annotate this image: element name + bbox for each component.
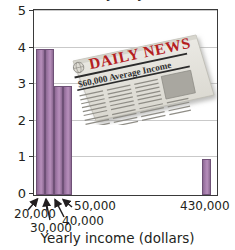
y-tick-1 xyxy=(29,156,34,157)
y-tick-5 xyxy=(29,10,34,11)
y-tick-4 xyxy=(29,47,34,48)
bar-50000 xyxy=(63,86,72,196)
newspaper-headline-text: $60,000 Average Income xyxy=(77,60,172,90)
y-tick-2 xyxy=(29,120,34,121)
gridline-3 xyxy=(34,83,217,84)
gridline-4 xyxy=(34,47,217,48)
x-axis-label-40000: 40,000 xyxy=(62,215,104,227)
bar-40000 xyxy=(54,86,63,196)
y-axis-label-3: 3 xyxy=(18,77,26,90)
x-axis-title: Yearly income (dollars) xyxy=(0,230,235,246)
gridline-5 xyxy=(34,10,217,11)
histogram-figure: Anita's yearly income Number of families… xyxy=(0,0,235,250)
bar-30000 xyxy=(45,49,54,195)
plot-area: 5 4 3 2 1 0 xyxy=(33,9,218,196)
y-axis-title: Number of families xyxy=(0,36,2,169)
x-axis-label-50000: 50,000 xyxy=(74,200,116,212)
x-axis-label-20000: 20,000 xyxy=(14,208,56,220)
x-axis-label-430000: 430,000 xyxy=(180,200,230,212)
bar-20000 xyxy=(36,49,45,195)
chart-title: Anita's yearly income xyxy=(33,0,219,1)
y-axis-label-2: 2 xyxy=(18,113,26,126)
y-axis-label-4: 4 xyxy=(18,40,26,53)
y-tick-3 xyxy=(29,83,34,84)
y-axis-label-1: 1 xyxy=(18,150,26,163)
y-axis-label-5: 5 xyxy=(18,4,26,17)
newspaper-masthead-text: DAILY NEWS xyxy=(87,34,192,72)
